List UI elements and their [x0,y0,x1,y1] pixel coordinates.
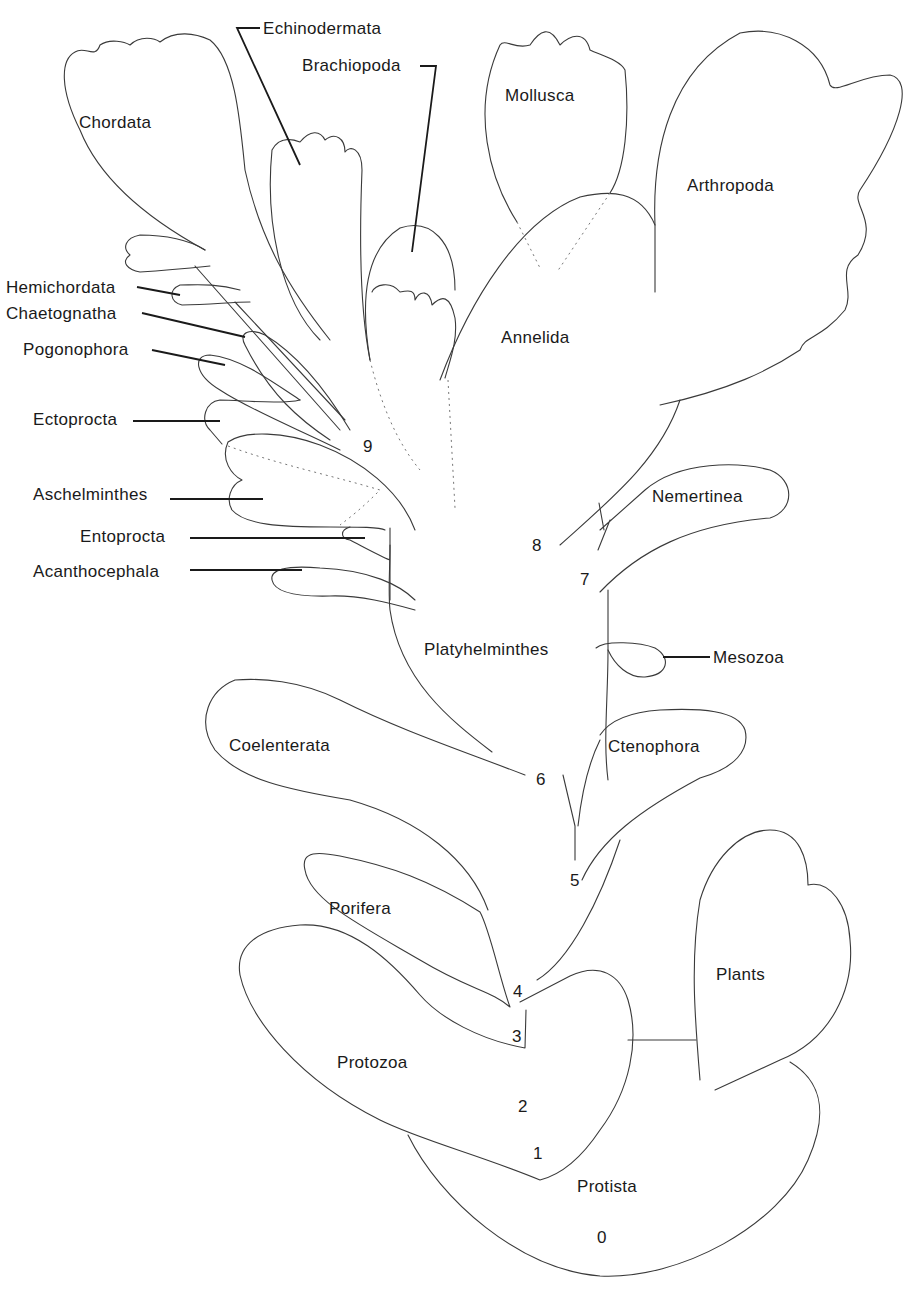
label-aschelminthes: Aschelminthes [33,485,147,504]
branch-number-2: 2 [518,1097,527,1116]
label-pogonophora: Pogonophora [23,340,129,359]
plants-outline [694,830,850,1090]
branch-number-1: 1 [533,1144,542,1163]
hemichordata-outline [172,285,250,305]
brachiopoda-dotted [370,360,455,508]
label-arthropoda: Arthropoda [687,176,774,195]
branch-number-6: 6 [536,770,545,789]
protozoa-outline [239,925,633,1180]
aschelminthes-outline [225,434,415,530]
echinodermata-outline [270,133,370,360]
phylogenetic-tree-diagram: Echinodermata Brachiopoda Chordata Mollu… [0,0,920,1292]
label-protista: Protista [577,1177,637,1196]
label-mesozoa: Mesozoa [713,648,784,667]
nemertinea-outline [598,465,789,592]
trunk-5-6 [563,740,600,860]
annelida-outline [440,193,680,545]
branch-numbers: 0 1 2 3 4 5 6 7 8 9 [363,437,606,1247]
protista-outline [408,1062,820,1276]
chaetognatha-leader [142,313,245,337]
label-protozoa: Protozoa [337,1053,408,1072]
branch-number-0: 0 [597,1228,606,1247]
label-mollusca: Mollusca [505,86,575,105]
branch-number-3: 3 [512,1027,521,1046]
leader-lines [133,28,710,657]
acanthocephala-outline [272,567,415,610]
label-ectoprocta: Ectoprocta [33,410,118,429]
label-acanthocephala: Acanthocephala [33,562,159,581]
brachiopoda-outline [365,226,455,378]
aschelminthes-dotted [228,446,380,525]
label-nemertinea: Nemertinea [652,487,743,506]
coelenterata-outline [206,679,525,910]
label-ctenophora: Ctenophora [608,737,700,756]
branch-number-9: 9 [363,437,372,456]
taxon-labels: Echinodermata Brachiopoda Chordata Mollu… [6,19,784,1196]
arthropoda-outline [655,31,903,405]
stem-left-1 [195,266,345,430]
label-coelenterata: Coelenterata [229,736,330,755]
branch-number-4: 4 [513,982,522,1001]
porifera-outline [304,853,510,1007]
label-chordata: Chordata [79,113,152,132]
hemichordata-leader [137,287,180,295]
label-porifera: Porifera [329,899,391,918]
ctenophora-outline [582,709,746,880]
platyhelminthes-outline [389,545,608,780]
echinodermata-leader [237,28,300,165]
label-brachiopoda: Brachiopoda [302,56,401,75]
pogonophora-leader [152,350,225,365]
hemichordata-upper-lobe [125,235,210,272]
label-echinodermata: Echinodermata [263,19,381,38]
mesozoa-outline [596,643,665,677]
stem-4-5 [537,840,620,980]
label-entoprocta: Entoprocta [80,527,165,546]
label-chaetognatha: Chaetognatha [6,304,117,323]
branch-number-7: 7 [580,570,589,589]
ectoprocta-outline [205,400,300,444]
branch-number-8: 8 [532,536,541,555]
brachiopoda-leader [412,66,436,252]
label-plants: Plants [716,965,765,984]
label-hemichordata: Hemichordata [6,278,116,297]
branch-number-5: 5 [570,871,579,890]
label-annelida: Annelida [501,328,570,347]
label-platyhelminthes: Platyhelminthes [424,640,549,659]
